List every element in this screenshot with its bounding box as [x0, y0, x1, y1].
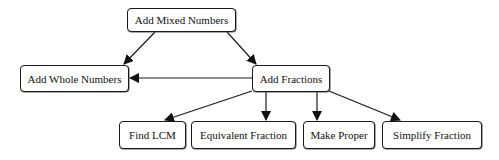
node-simplify-fraction: Simplify Fraction [382, 121, 482, 149]
node-find-lcm: Find LCM [119, 121, 186, 149]
node-make-proper: Make Proper [303, 121, 375, 149]
concept-diagram: Add Mixed Numbers Add Whole Numbers Add … [0, 0, 499, 160]
edge-mixed-to-fractions [227, 32, 256, 64]
edge-fractions-to-lcm [165, 91, 252, 120]
node-equivalent-fraction: Equivalent Fraction [191, 121, 296, 149]
node-add-fractions: Add Fractions [252, 65, 330, 92]
node-add-whole-numbers: Add Whole Numbers [20, 65, 129, 92]
edge-mixed-to-whole [124, 32, 155, 64]
node-add-mixed-numbers: Add Mixed Numbers [127, 8, 236, 32]
edge-fractions-to-simplify [329, 91, 400, 120]
